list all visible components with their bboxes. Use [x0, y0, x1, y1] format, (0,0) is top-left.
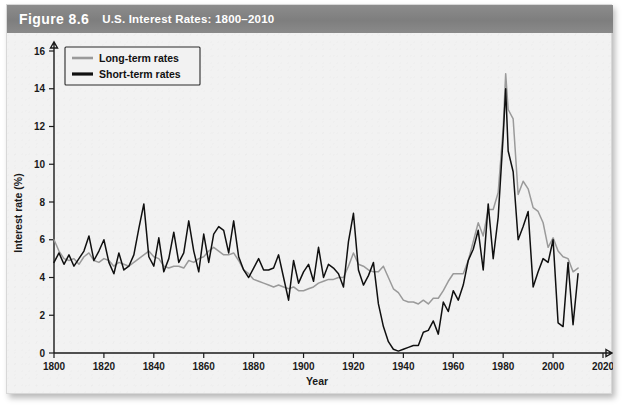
y-tick-label-16: 16	[34, 46, 46, 57]
figure-number: Figure 8.6	[19, 11, 89, 27]
figure-root: Figure 8.6 U.S. Interest Rates: 1800–201…	[0, 0, 623, 407]
series-line-short-term-rates	[54, 89, 578, 351]
x-tick-label-1840: 1840	[143, 361, 166, 372]
x-tick-label-1800: 1800	[43, 361, 66, 372]
x-tick-label-1820: 1820	[93, 361, 116, 372]
x-tick-label-1920: 1920	[342, 361, 365, 372]
y-tick-label-6: 6	[39, 234, 45, 245]
y-tick-label-0: 0	[39, 348, 45, 359]
y-tick-label-8: 8	[39, 197, 45, 208]
chart-plot-area: 0246810121416 Interest rate (%) 18001820…	[7, 33, 613, 394]
x-tick-label-2000: 2000	[542, 361, 565, 372]
x-axis: 1800182018401860188019001920194019601980…	[43, 350, 613, 388]
legend-label-long-term-rates: Long-term rates	[99, 52, 179, 64]
x-tick-label-1880: 1880	[243, 361, 266, 372]
x-tick-label-1900: 1900	[292, 361, 315, 372]
x-axis-line	[54, 350, 612, 357]
figure-title: U.S. Interest Rates: 1800–2010	[102, 13, 274, 25]
y-tick-label-4: 4	[39, 272, 45, 283]
x-tick-label-1860: 1860	[193, 361, 216, 372]
x-axis-title: Year	[306, 375, 328, 387]
chart-series-group	[54, 74, 578, 351]
x-tick-label-1980: 1980	[492, 361, 515, 372]
legend-label-short-term-rates: Short-term rates	[99, 68, 181, 80]
y-tick-label-14: 14	[34, 83, 46, 94]
chart-legend: Long-term rates Short-term rates	[65, 47, 200, 85]
y-axis: 0246810121416 Interest rate (%)	[12, 42, 58, 359]
x-tick-label-1940: 1940	[392, 361, 415, 372]
y-tick-label-2: 2	[39, 310, 45, 321]
x-tick-label-1960: 1960	[442, 361, 465, 372]
y-tick-label-12: 12	[34, 121, 46, 132]
y-axis-ticks: 0246810121416	[34, 46, 54, 359]
y-axis-title: Interest rate (%)	[12, 173, 24, 252]
interest-rates-line-chart: 0246810121416 Interest rate (%) 18001820…	[7, 33, 613, 394]
x-axis-ticks: 1800182018401860188019001920194019601980…	[43, 353, 613, 372]
y-tick-label-10: 10	[34, 159, 46, 170]
figure-card: Figure 8.6 U.S. Interest Rates: 1800–201…	[6, 4, 612, 394]
figure-title-bar: Figure 8.6 U.S. Interest Rates: 1800–201…	[7, 5, 613, 33]
x-tick-label-2020: 2020	[592, 361, 613, 372]
